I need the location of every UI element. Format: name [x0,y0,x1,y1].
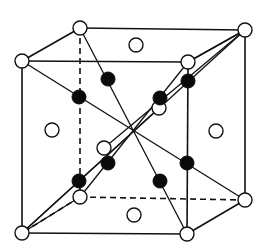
open-atom-corner-btl [73,21,87,35]
open-atom-corner-btr [238,23,252,37]
cube-edge [187,200,245,234]
bond-line [22,197,80,233]
open-atom-face-bottom [127,208,141,222]
crystal-structure-diagram [0,0,267,252]
bond-line [188,30,245,62]
open-atom-corner-ftl [15,54,29,68]
open-atom-corner-bbl [73,190,87,204]
filled-atom-tet-6 [72,174,86,188]
cube-edge [22,28,80,61]
filled-atom-tet-2 [101,72,115,86]
filled-atom-tet-5 [101,156,115,170]
body-diagonal [80,62,188,197]
cube-edge [22,233,187,234]
open-atom-face-front [97,141,111,155]
open-atom-corner-fbr [180,227,194,241]
cube-edge [80,28,245,30]
open-atom-face-right [209,124,223,138]
open-atom-corner-fbl [15,226,29,240]
filled-atom-tet-1 [72,90,86,104]
unit-cell-drawing [0,0,267,252]
filled-atom-tet-7 [180,156,194,170]
hidden-cube-edge [80,197,245,200]
open-atom-face-left [45,123,59,137]
open-atom-corner-bbr [238,193,252,207]
bond-line [104,30,245,148]
filled-atom-tet-8 [153,174,167,188]
open-atom-face-top [129,38,143,52]
open-atom-corner-ftr [181,55,195,69]
cube-edge [22,61,188,62]
filled-atom-tet-4 [153,91,167,105]
filled-atom-tet-3 [181,74,195,88]
